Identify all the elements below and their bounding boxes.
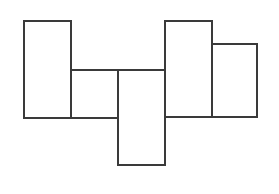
diagram-rect-4 — [165, 21, 212, 117]
diagram-rect-1 — [24, 21, 71, 118]
diagram-rect-5 — [212, 44, 257, 117]
diagram-rect-2 — [71, 70, 118, 118]
diagram-rect-3 — [118, 70, 165, 165]
diagram-canvas — [0, 0, 279, 194]
